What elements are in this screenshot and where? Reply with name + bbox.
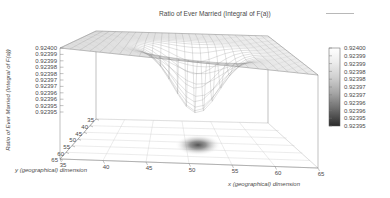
z-tick-label: 0.92397: [35, 83, 57, 89]
z-tick-label: 0.92400: [35, 45, 57, 51]
colorbar-tick-label: 0.92399: [344, 53, 366, 59]
x-tick-label: 55: [232, 168, 239, 174]
x-tick-label: 65: [318, 171, 325, 177]
y-tick-label: 40: [81, 124, 88, 130]
surface-mesh: [60, 31, 318, 113]
z-tick-label: 0.92396: [35, 96, 57, 102]
x-tick-label: 60: [275, 170, 282, 176]
z-axis-label: Ratio of Ever Married (Integral of F(a)): [5, 49, 11, 151]
colorbar-tick-label: 0.92398: [344, 69, 366, 75]
y-tick-label: 60: [57, 151, 64, 157]
x-tick-label: 50: [189, 167, 196, 173]
z-tick-label: 0.92399: [35, 58, 57, 64]
z-tick-label: 0.92399: [35, 51, 57, 57]
z-tick-label: 0.92397: [35, 77, 57, 83]
y-tick-label: 45: [75, 131, 82, 137]
x-axis-label: x (geographical) dimension: [227, 181, 301, 187]
colorbar-tick-label: 0.92396: [344, 108, 366, 114]
y-axis-ticks: 65605550454035: [51, 117, 99, 163]
z-tick-label: 0.92398: [35, 64, 57, 70]
colorbar-tick-label: 0.92397: [344, 84, 366, 90]
plot-canvas: 0.924000.923990.923990.923980.923980.923…: [0, 0, 390, 198]
base-contour-blob: [175, 135, 221, 156]
colorbar-tick-label: 0.92395: [344, 115, 366, 121]
y-tick-label: 55: [63, 144, 70, 150]
plot-title: Ratio of Ever Married (Integral of F(a)): [159, 10, 271, 18]
colorbar: 0.924000.923990.923990.923980.923980.923…: [329, 45, 366, 129]
x-tick-label: 40: [103, 164, 110, 170]
surface-plot-figure: 0.924000.923990.923990.923980.923980.923…: [0, 0, 390, 198]
x-axis-ticks: 35404550556065: [60, 159, 325, 177]
colorbar-tick-label: 0.92399: [344, 61, 366, 67]
z-tick-label: 0.92395: [35, 103, 57, 109]
y-axis-label: y (geographical) dimension: [14, 167, 88, 173]
colorbar-tick-label: 0.92397: [344, 92, 366, 98]
colorbar-tick-label: 0.92396: [344, 100, 366, 106]
z-axis-ticks: 0.924000.923990.923990.923980.923980.923…: [35, 45, 63, 115]
y-tick-label: 65: [51, 157, 58, 163]
colorbar-tick-label: 0.92398: [344, 76, 366, 82]
z-tick-label: 0.92396: [35, 90, 57, 96]
z-tick-label: 0.92395: [35, 109, 57, 115]
z-tick-label: 0.92398: [35, 71, 57, 77]
colorbar-tick-label: 0.92400: [344, 45, 366, 51]
y-tick-label: 35: [87, 117, 94, 123]
colorbar-tick-label: 0.92395: [344, 123, 366, 129]
x-tick-label: 45: [146, 165, 153, 171]
y-tick-label: 50: [69, 137, 76, 143]
